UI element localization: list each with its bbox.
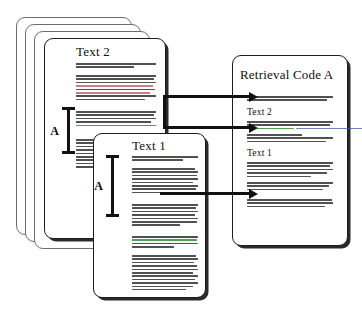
arrow-stack-to-retrieval-mid [163, 126, 258, 129]
measure-cap-bottom [62, 151, 75, 154]
retrieval-text-2-paragraph-2 [247, 134, 333, 144]
retrieval-code-document[interactable]: Retrieval Code A Text 2 Text 1 [232, 55, 348, 246]
text-1-heading: Text 1 [132, 138, 166, 154]
measure-bar [67, 107, 70, 154]
retrieval-code-title: Retrieval Code A [240, 67, 333, 83]
arrow-shaft [160, 192, 249, 195]
text-1-paragraph-1 [132, 156, 198, 163]
retrieval-text-2-paragraph-1 [247, 121, 333, 131]
text-2-paragraph-1 [76, 63, 156, 70]
diagram-canvas: Text 2 [0, 0, 362, 332]
text-2-heading: Text 2 [76, 44, 110, 60]
retrieval-section-text-2-heading: Text 2 [247, 107, 272, 117]
text-1-paragraph-5 [132, 255, 198, 292]
retrieval-section-text-1-heading: Text 1 [247, 148, 272, 158]
text-2-paragraph-3 [76, 111, 156, 128]
text-1-paragraph-4 [132, 236, 198, 250]
measure-bar-front [111, 155, 114, 217]
measure-bracket-stack: A [62, 107, 75, 154]
arrow-front-to-retrieval-bottom [160, 192, 258, 195]
arrow-shaft [163, 126, 249, 129]
arrow-head [249, 189, 258, 199]
text-2-paragraph-2 [76, 75, 156, 102]
arrow-head [249, 123, 258, 133]
arrow-head [249, 92, 258, 102]
arrow-shaft [163, 95, 249, 98]
retrieval-text-1-paragraph-3 [247, 199, 333, 209]
text-1-paragraph-3 [132, 204, 198, 228]
retrieval-text-1-paragraph-2 [247, 182, 333, 192]
arrow-stack-to-retrieval-top [163, 95, 258, 98]
retrieval-text-1-paragraph-1 [247, 162, 333, 179]
measure-bracket-front: A [106, 155, 119, 217]
measure-cap-bottom-front [106, 214, 119, 217]
arrow-vertical-connector [163, 96, 166, 129]
measure-label-front: A [94, 179, 103, 194]
measure-label-stack: A [50, 123, 59, 138]
retrieval-intro-paragraph [247, 96, 333, 103]
